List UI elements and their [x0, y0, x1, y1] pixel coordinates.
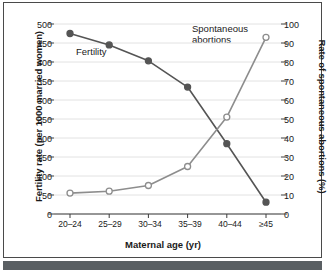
- data-point-open: [67, 190, 73, 196]
- data-point-open: [106, 188, 112, 194]
- data-point-filled: [185, 84, 191, 90]
- data-point-filled: [145, 58, 151, 64]
- footer-bar: [3, 261, 322, 270]
- series-group: [67, 31, 269, 206]
- data-point-open: [185, 164, 191, 170]
- data-point-filled: [67, 31, 73, 37]
- plot-area: [4, 3, 321, 257]
- x-axis-title: Maternal age (yr): [0, 239, 326, 250]
- data-point-filled: [106, 42, 112, 48]
- data-point-filled: [263, 199, 269, 205]
- data-point-filled: [224, 141, 230, 147]
- data-point-open: [145, 183, 151, 189]
- data-point-open: [224, 114, 230, 120]
- series-line-left: [70, 34, 266, 203]
- chart-card: Fertility rate (per 1000 married women) …: [3, 2, 322, 258]
- gridlines-group: [54, 24, 281, 214]
- series-line-right: [70, 37, 266, 193]
- tick-marks-group: [48, 24, 287, 218]
- data-point-open: [263, 34, 269, 40]
